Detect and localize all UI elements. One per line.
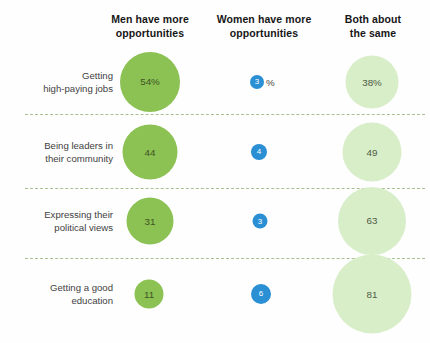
bubble-women: 4 — [251, 144, 267, 160]
bubble-women-value: 3 — [255, 78, 259, 86]
bubble-women-value: 4 — [257, 148, 261, 156]
row-label-line1: Getting — [17, 69, 113, 82]
row-label-line2: political views — [17, 221, 113, 234]
bubble-men: 31 — [127, 198, 174, 245]
column-header-men: Men have more opportunities — [98, 13, 202, 41]
column-header-both-line2: the same — [330, 27, 416, 41]
bubble-men-value: 44 — [145, 147, 156, 157]
bubble-men: 54% — [120, 52, 180, 112]
bubble-women-suffix: % — [266, 77, 275, 88]
bubble-women: 6 — [251, 284, 271, 304]
column-header-men-line1: Men have more — [98, 13, 202, 27]
bubble-chart: Men have more opportunities Women have m… — [0, 0, 430, 343]
column-header-men-line2: opportunities — [98, 27, 202, 41]
bubble-both: 38% — [346, 56, 399, 109]
bubble-both-value: 63 — [367, 216, 378, 226]
bubble-both-value: 38% — [362, 77, 382, 87]
bubble-both-value: 49 — [367, 147, 378, 157]
bubble-women: 3 — [253, 214, 268, 229]
row-label: Expressing their political views — [17, 208, 113, 234]
bubble-women-value: 3 — [258, 217, 262, 225]
bubble-both: 49 — [343, 123, 402, 182]
row-label: Getting a good education — [17, 281, 113, 307]
column-header-both: Both about the same — [330, 13, 416, 41]
column-header-women-line1: Women have more — [205, 13, 323, 27]
row-label-line2: education — [17, 294, 113, 307]
bubble-men-value: 11 — [144, 289, 154, 299]
row-label-line1: Being leaders in — [17, 139, 113, 152]
bubble-men: 11 — [135, 280, 164, 309]
bubble-men-value: 54% — [140, 77, 160, 87]
bubble-both: 81 — [333, 255, 412, 334]
column-header-both-line1: Both about — [330, 13, 416, 27]
bubble-both: 63 — [338, 187, 406, 255]
row-label: Being leaders in their community — [17, 139, 113, 165]
row-label: Getting high-paying jobs — [17, 69, 113, 95]
row-label-line2: high-paying jobs — [17, 82, 113, 95]
row-label-line1: Expressing their — [17, 208, 113, 221]
bubble-men-value: 31 — [145, 216, 156, 226]
bubble-women-value: 6 — [259, 290, 263, 298]
column-header-women-line2: opportunities — [205, 27, 323, 41]
row-label-line1: Getting a good — [17, 281, 113, 294]
column-header-women: Women have more opportunities — [205, 13, 323, 41]
bubble-men: 44 — [123, 125, 178, 180]
row-divider — [25, 114, 425, 115]
bubble-both-value: 81 — [367, 289, 378, 299]
row-label-line2: their community — [17, 152, 113, 165]
bubble-women: 3 — [250, 75, 264, 89]
